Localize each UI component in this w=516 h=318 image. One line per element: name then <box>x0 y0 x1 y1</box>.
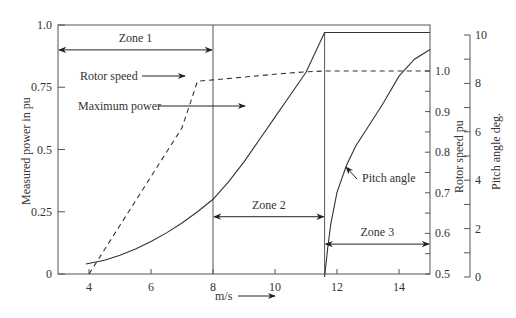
x-axis-label: m/s <box>215 289 233 303</box>
y-rotor-tick-label: 0.8 <box>435 145 450 159</box>
y-left-tick-label: 0.25 <box>31 205 52 219</box>
x-axis-ticks: 468101214 <box>86 269 405 294</box>
y-rotor-tick-label: 0.6 <box>435 226 450 240</box>
y-pitch-tick-label: 4 <box>475 173 481 187</box>
y-rotor-tick-label: 0.9 <box>435 105 450 119</box>
x-tick-label: 4 <box>86 280 92 294</box>
chart: 468101214 00.250.50.751.0 0.50.60.70.80.… <box>0 0 516 318</box>
arrow-icon <box>346 167 357 179</box>
y-left-tick-label: 0.75 <box>31 80 52 94</box>
left-axis-ticks: 00.250.50.751.0 <box>31 18 65 281</box>
y-left-tick-label: 0 <box>46 267 52 281</box>
y-pitch-tick-label: 2 <box>475 222 481 236</box>
zone-label: Zone 1 <box>119 31 153 45</box>
x-tick-label: 14 <box>393 280 405 294</box>
annotation-max-power: Maximum power <box>78 99 245 113</box>
y-rotor-tick-label: 0.7 <box>435 186 450 200</box>
series-pitch-angle <box>325 50 430 278</box>
x-tick-label: 12 <box>331 280 343 294</box>
rotor-speed-label: Rotor speed <box>80 69 138 83</box>
annotation-rotor-speed: Rotor speed <box>80 69 185 83</box>
y-pitch-tick-label: 8 <box>475 76 481 90</box>
y-left-tick-label: 0.5 <box>37 143 52 157</box>
y-pitch-tick-label: 0 <box>475 270 481 284</box>
y-rotor-tick-label: 0.5 <box>435 267 450 281</box>
zone-label: Zone 3 <box>360 225 394 239</box>
zone-label: Zone 2 <box>252 198 286 212</box>
y-right-rotor-label: Rotor speed pu <box>452 120 466 193</box>
y-rotor-tick-label: 1.0 <box>435 64 450 78</box>
y-left-label: Measured power in pu <box>19 97 33 205</box>
y-right-pitch-label: Pitch angle deg. <box>489 113 503 190</box>
zone-arrows: Zone 1Zone 2Zone 3 <box>59 31 429 244</box>
annotation-pitch-angle: Pitch angle <box>346 167 416 185</box>
y-left-tick-label: 1.0 <box>37 18 52 32</box>
pitch-axis-ticks: 0246810 <box>464 28 487 284</box>
zone-boundaries <box>213 25 325 274</box>
y-pitch-tick-label: 6 <box>475 125 481 139</box>
x-tick-label: 6 <box>148 280 154 294</box>
x-tick-label: 10 <box>269 280 281 294</box>
rotor-axis-ticks: 0.50.60.70.80.91.0 <box>425 64 450 281</box>
y-pitch-tick-label: 10 <box>475 28 487 42</box>
pitch-angle-label: Pitch angle <box>362 171 416 185</box>
max-power-label: Maximum power <box>78 99 161 113</box>
